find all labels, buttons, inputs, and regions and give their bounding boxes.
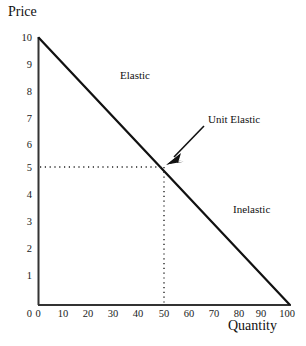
y-tick-2: 2 <box>12 243 32 254</box>
x-tick-30: 30 <box>102 308 124 319</box>
x-tick-10: 10 <box>52 308 74 319</box>
unit-elastic-arrow <box>166 126 204 165</box>
y-tick-7: 7 <box>12 113 32 124</box>
x-tick-90: 90 <box>250 308 272 319</box>
x-tick-0: 0 <box>27 308 49 319</box>
y-tick-6: 6 <box>12 139 32 150</box>
y-tick-5: 5 <box>12 162 32 173</box>
x-tick-70: 70 <box>203 308 225 319</box>
y-tick-8: 8 <box>12 86 32 97</box>
y-tick-1: 1 <box>12 270 32 281</box>
annotation-inelastic: Inelastic <box>233 203 270 215</box>
elasticity-demand-chart: Price Quantity Elastic Inelastic Unit El… <box>0 0 306 346</box>
x-tick-50: 50 <box>153 308 175 319</box>
x-tick-60: 60 <box>178 308 200 319</box>
annotation-unit-elastic: Unit Elastic <box>208 113 260 125</box>
y-tick-10: 10 <box>12 32 32 43</box>
x-axis-title: Quantity <box>228 318 277 334</box>
x-tick-20: 20 <box>77 308 99 319</box>
x-tick-100: 100 <box>276 308 298 319</box>
y-tick-9: 9 <box>12 59 32 70</box>
y-axis-title: Price <box>8 4 37 20</box>
y-tick-4: 4 <box>12 189 32 200</box>
chart-plot-area <box>0 0 306 346</box>
x-tick-40: 40 <box>127 308 149 319</box>
y-tick-3: 3 <box>12 216 32 227</box>
annotation-elastic: Elastic <box>120 69 150 81</box>
x-tick-80: 80 <box>228 308 250 319</box>
